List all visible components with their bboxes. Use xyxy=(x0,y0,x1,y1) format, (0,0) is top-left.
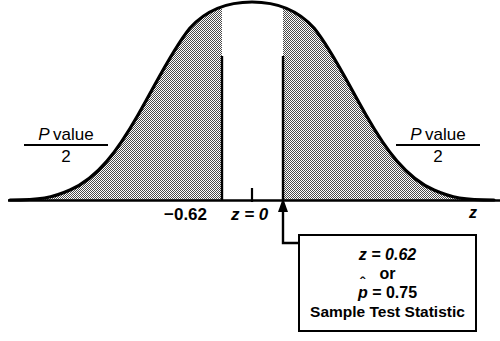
z-axis-label: z xyxy=(469,205,477,221)
callout-z-value: z = 0.62 xyxy=(359,246,416,264)
p-value-label-right: P value 2 xyxy=(396,126,480,165)
normal-curve xyxy=(10,2,494,200)
critical-value-label: −0.62 xyxy=(164,206,207,223)
figure-canvas: P value 2 P value 2 −0.62 z = 0 z z = 0.… xyxy=(0,0,500,341)
callout-phat-value: ˆp = 0.75 xyxy=(358,284,417,302)
p-value-numerator-left: P value xyxy=(24,126,108,146)
p-value-denominator-left: 2 xyxy=(24,146,108,165)
callout-caption: Sample Test Statistic xyxy=(310,303,465,320)
callout-connector xyxy=(278,198,300,243)
p-value-numerator-right: P value xyxy=(396,126,480,146)
callout-or: or xyxy=(380,265,396,283)
center-z-label: z = 0 xyxy=(231,206,268,223)
sample-test-statistic-callout: z = 0.62 or ˆp = 0.75 Sample Test Statis… xyxy=(298,234,477,332)
p-value-label-left: P value 2 xyxy=(24,126,108,165)
p-hat-symbol: ˆp xyxy=(358,284,368,302)
p-value-denominator-right: 2 xyxy=(396,146,480,165)
